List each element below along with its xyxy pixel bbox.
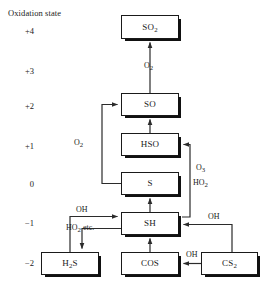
species-label-so: SO: [144, 100, 156, 109]
reagent-label-oh-h2s-to-sh: OH: [76, 206, 88, 214]
edge-sh-to-hso: [182, 145, 190, 218]
axis-title: Oxidation state: [8, 8, 61, 18]
species-box-h2s[interactable]: H2S: [41, 252, 99, 275]
species-box-so2[interactable]: SO2: [121, 15, 179, 39]
edge-cs2-to-sh: [184, 225, 233, 253]
species-label-cos: COS: [141, 259, 159, 268]
species-label-so2: SO2: [142, 23, 158, 32]
species-label-h2s: H2S: [62, 259, 78, 268]
axis-tick-6: −2: [8, 258, 34, 268]
species-label-hso: HSO: [141, 140, 160, 149]
species-label-s: S: [147, 179, 152, 188]
species-box-cs2[interactable]: CS2: [201, 252, 258, 275]
reagent-label-o3-sh-to-hso: O3: [196, 164, 205, 172]
edge-h2s-to-sh: [70, 217, 118, 253]
reagent-label-oh-cs2-to-sh: OH: [208, 213, 220, 221]
axis-tick-5: −1: [8, 218, 34, 228]
axis-tick-1: +3: [8, 66, 34, 76]
edge-s-to-so: [102, 105, 121, 184]
species-label-sh: SH: [144, 219, 156, 228]
diagram-canvas: Oxidation state +4+3+2+10−1−2 SO2SO: [0, 0, 264, 288]
reagent-label-ho2-sh-to-hso: HO2: [193, 179, 208, 187]
reagent-label-ho2-sh-to-h2s: HO2 etc.: [66, 224, 94, 232]
axis-tick-2: +2: [8, 101, 34, 111]
species-box-sh[interactable]: SH: [121, 212, 179, 235]
species-box-cos[interactable]: COS: [121, 252, 179, 275]
reagent-label-o2-s-to-so: O2: [74, 139, 83, 147]
species-box-s[interactable]: S: [121, 172, 179, 195]
species-box-so[interactable]: SO: [121, 93, 179, 116]
reagent-label-oh-cs2-to-cos: OH: [186, 251, 198, 259]
axis-tick-4: 0: [8, 179, 34, 189]
axis-tick-3: +1: [8, 141, 34, 151]
species-label-cs2: CS2: [222, 259, 237, 268]
reagent-label-o2-so-to-so2: O2: [144, 62, 153, 70]
species-box-hso[interactable]: HSO: [121, 133, 179, 156]
axis-tick-0: +4: [8, 26, 34, 36]
